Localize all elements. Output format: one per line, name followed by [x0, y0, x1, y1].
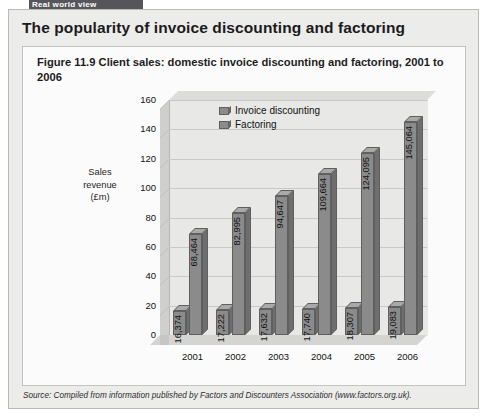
legend-item: Invoice discounting [219, 105, 320, 116]
plot-floor-corner [160, 335, 169, 345]
y-axis-tick-label: 120 [128, 154, 156, 164]
y-axis-title-line-2: (£m) [67, 191, 133, 204]
y-axis-tick-label: 0 [128, 330, 156, 340]
bar-value-label: 124,095 [362, 157, 371, 191]
x-axis-tick-label: 2006 [385, 351, 431, 362]
gridline [169, 100, 427, 101]
y-axis-title-line-0: Sales [67, 166, 133, 179]
bar-value-label: 17,740 [303, 313, 312, 341]
legend-item: Factoring [219, 119, 320, 130]
x-axis-tick-label: 2002 [213, 351, 259, 362]
y-axis-tick-label: 160 [128, 95, 156, 105]
section-banner: Real world view [29, 0, 143, 9]
legend-swatch-icon [219, 107, 229, 115]
x-axis-tick-label: 2005 [342, 351, 388, 362]
page-title: The popularity of invoice discounting an… [22, 19, 405, 37]
bar-value-label: 17,222 [217, 314, 226, 342]
bar-side-face [331, 168, 337, 335]
plot-top-face [169, 91, 436, 100]
gridline [169, 218, 427, 219]
y-axis-tick-label: 80 [128, 213, 156, 223]
x-axis-tick-label: 2001 [170, 351, 216, 362]
plot-floor [150, 335, 427, 345]
bar-value-label: 16,374 [174, 315, 183, 343]
bar-value-label: 145,064 [405, 126, 414, 160]
bar-side-face [417, 116, 423, 335]
y-axis-tick-label: 60 [128, 242, 156, 252]
bar-value-label: 68,464 [190, 238, 199, 266]
bar-side-face [374, 147, 380, 335]
chart-legend: Invoice discountingFactoring [219, 105, 320, 133]
figure-panel: Figure 11.9 Client sales: domestic invoi… [22, 46, 466, 386]
bar-side-face [245, 207, 251, 335]
legend-swatch-icon [219, 121, 229, 129]
legend-label: Factoring [235, 119, 277, 130]
y-axis-title: Salesrevenue(£m) [67, 166, 133, 204]
bar-value-label: 94,647 [276, 200, 285, 228]
bar-value-label: 109,664 [319, 178, 328, 212]
bar-chart: Salesrevenue(£m) 020406080100120140160 1… [23, 47, 467, 387]
gridline [169, 159, 427, 160]
y-axis-tick-label: 40 [128, 271, 156, 281]
y-axis-tick-label: 140 [128, 124, 156, 134]
bar-value-label: 19,083 [389, 311, 398, 339]
y-axis-title-line-1: revenue [67, 179, 133, 192]
bar-value-label: 18,307 [346, 312, 355, 340]
x-axis-tick-label: 2003 [256, 351, 302, 362]
legend-label: Invoice discounting [235, 105, 320, 116]
feature-card: The popularity of invoice discounting an… [8, 9, 479, 409]
bar-value-label: 17,632 [260, 313, 269, 341]
y-axis-tick-label: 20 [128, 301, 156, 311]
bar-side-face [202, 228, 208, 335]
source-note: Source: Compiled from information publis… [23, 391, 473, 400]
bar-side-face [288, 190, 294, 335]
gridline [169, 188, 427, 189]
bar-value-label: 82,995 [233, 217, 242, 245]
y-axis-tick-label: 100 [128, 183, 156, 193]
x-axis-tick-label: 2004 [299, 351, 345, 362]
